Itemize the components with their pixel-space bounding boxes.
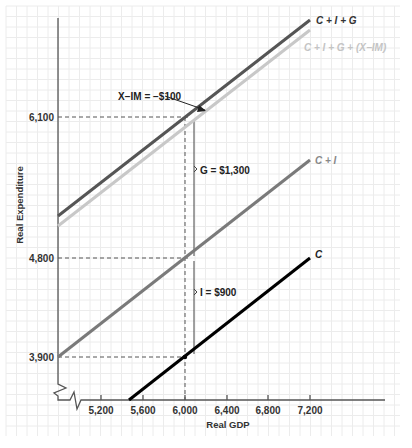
x-tick-label-6400: 6,400 — [214, 405, 239, 416]
x-tick-label-6000: 6,000 — [172, 405, 197, 416]
x-tick-label-5600: 5,600 — [130, 405, 155, 416]
point-c-6000 — [183, 355, 187, 359]
series-label-c-i-g-nx: C + I + G + (X−IM) — [304, 42, 387, 53]
annotation-g: G = $1,300 — [200, 165, 250, 176]
y-tick-label-3900: 3,900 — [29, 352, 54, 363]
x-tick-label-5200: 5,200 — [88, 405, 113, 416]
x-tick-label-7200: 7,200 — [297, 405, 322, 416]
x-axis-title: Real GDP — [206, 419, 250, 430]
annotation-i: I = $900 — [200, 287, 237, 298]
series-label-c-i: C + I — [315, 155, 337, 166]
y-axis-break — [54, 382, 66, 400]
chart-container: 6,100 4,800 3,900 5,200 5,600 6,000 6,40… — [0, 0, 412, 448]
y-tick-label-6100: 6,100 — [29, 112, 54, 123]
series-label-c-i-g: C + I + G — [316, 15, 357, 26]
series-label-c: C — [315, 249, 323, 260]
y-tick-label-4800: 4,800 — [29, 253, 54, 264]
x-tick-label-6800: 6,800 — [255, 405, 280, 416]
y-axis-title: Real Expenditure — [14, 166, 25, 244]
annotation-nx: X−IM = −$100 — [118, 91, 182, 102]
aggregate-expenditure-chart: 6,100 4,800 3,900 5,200 5,600 6,000 6,40… — [0, 0, 412, 448]
axes — [54, 18, 385, 409]
